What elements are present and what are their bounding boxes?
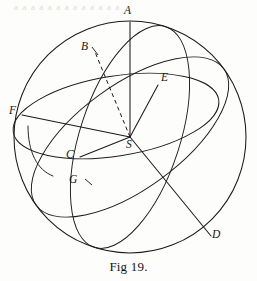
point-label-A: A (124, 5, 131, 17)
figure-19-container: a a a a a a a a a a a a a A B E F S C G … (0, 0, 257, 281)
point-label-E: E (161, 72, 168, 84)
point-label-F: F (9, 105, 16, 117)
tick-mark-B (92, 47, 98, 55)
point-label-D: D (212, 229, 220, 241)
short-arc-fragment (28, 126, 53, 176)
horizon-great-circle (7, 60, 225, 172)
point-label-G: G (69, 174, 77, 186)
radius-line-SF (22, 115, 130, 137)
point-label-B: B (81, 41, 88, 53)
radius-line-SE (130, 85, 158, 137)
radius-line-SC (80, 137, 130, 157)
tick-mark-G (85, 179, 92, 185)
point-label-S: S (126, 139, 132, 151)
point-label-C: C (66, 149, 74, 161)
figure-caption: Fig 19. (0, 259, 257, 275)
